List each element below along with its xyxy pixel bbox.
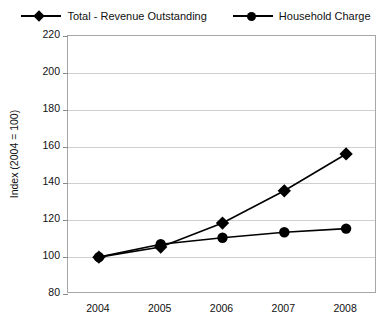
x-tick-label: 2005 (130, 302, 190, 314)
y-tick-label: 140 (20, 175, 60, 187)
diamond-marker-icon (21, 10, 61, 22)
circle-marker-icon (341, 223, 351, 233)
y-tick-label: 180 (20, 102, 60, 114)
circle-marker-icon (217, 233, 227, 243)
chart-legend: Total - Revenue Outstanding Household Ch… (0, 6, 392, 26)
legend-entry-household-charge: Household Charge (233, 10, 371, 22)
x-tick-label: 2006 (192, 302, 252, 314)
y-tick-label: 120 (20, 212, 60, 224)
y-tick-label: 100 (20, 249, 60, 261)
diamond-marker-icon (339, 147, 352, 160)
y-tick-label: 220 (20, 28, 60, 40)
x-tick-label: 2007 (253, 302, 313, 314)
circle-marker-icon (279, 227, 289, 237)
series-layer (68, 36, 377, 294)
line-chart: Total - Revenue Outstanding Household Ch… (0, 0, 392, 331)
x-tick-label: 2008 (315, 302, 375, 314)
y-tick-label: 160 (20, 139, 60, 151)
y-tick-label: 80 (20, 286, 60, 298)
diamond-marker-icon (216, 216, 229, 229)
plot-area (67, 35, 376, 293)
y-axis-title: Index (2004 = 100) (8, 74, 20, 234)
circle-marker-icon (233, 10, 273, 22)
circle-marker-icon (94, 252, 104, 262)
y-tick-mark (63, 294, 68, 295)
y-tick-label: 200 (20, 65, 60, 77)
legend-entry-total-revenue-outstanding: Total - Revenue Outstanding (21, 10, 206, 22)
legend-label: Total - Revenue Outstanding (61, 10, 206, 22)
circle-marker-icon (156, 239, 166, 249)
x-tick-label: 2004 (68, 302, 128, 314)
legend-label: Household Charge (273, 10, 371, 22)
diamond-marker-icon (278, 184, 291, 197)
